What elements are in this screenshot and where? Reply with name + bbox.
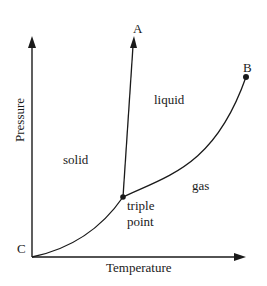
fusion-line-arrowhead-icon (130, 36, 137, 48)
y-axis-label: Pressure (12, 98, 27, 142)
triple-point-dot (120, 194, 126, 200)
point-b-label: B (243, 60, 252, 75)
solid-region-label: solid (63, 152, 89, 167)
gas-region-label: gas (192, 178, 209, 193)
sublimation-curve (32, 197, 123, 257)
x-axis-arrowhead-icon (234, 253, 246, 261)
y-axis-arrowhead-icon (28, 36, 36, 48)
liquid-region-label: liquid (154, 92, 185, 107)
fusion-line (123, 46, 133, 197)
vaporization-curve (123, 77, 246, 197)
triple-point-label-line1: triple (127, 198, 155, 213)
x-axis-label: Temperature (106, 260, 172, 275)
phase-diagram: A B C liquid solid gas triple point Temp… (0, 0, 267, 286)
phase-diagram-svg: A B C liquid solid gas triple point Temp… (0, 0, 267, 286)
point-a-label: A (133, 21, 143, 36)
triple-point-label-line2: point (127, 214, 154, 229)
origin-c-label: C (17, 241, 26, 256)
